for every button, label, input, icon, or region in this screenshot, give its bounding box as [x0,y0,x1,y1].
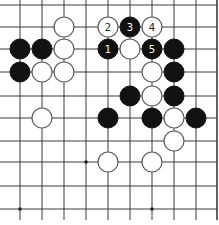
black-stone[interactable] [164,39,184,59]
white-stone-move-4[interactable]: 4 [142,17,162,37]
white-stone-icon [142,86,162,106]
black-stone-icon [10,62,30,82]
black-stone[interactable] [186,108,206,128]
black-stone-move-1[interactable]: 1 [98,39,118,59]
white-stone-icon [32,108,52,128]
white-stone-move-2[interactable]: 2 [98,17,118,37]
black-stone[interactable] [120,86,140,106]
black-stone-move-5[interactable]: 5 [142,39,162,59]
white-stone[interactable] [120,39,140,59]
white-stone-icon [120,39,140,59]
black-stone[interactable] [164,86,184,106]
white-stone-icon [32,62,52,82]
white-stone-icon [98,152,118,172]
white-stone-icon [54,17,74,37]
white-stone[interactable] [54,17,74,37]
black-stone[interactable] [98,108,118,128]
white-stone-icon [142,152,162,172]
white-stone[interactable] [142,86,162,106]
white-stone-icon [142,62,162,82]
star-point [84,160,88,164]
white-stone[interactable] [32,62,52,82]
white-stone[interactable] [32,108,52,128]
star-point [18,207,22,211]
black-stone[interactable] [32,39,52,59]
black-stone-icon [98,108,118,128]
move-number: 1 [105,44,111,55]
white-stone-icon [54,62,74,82]
black-stone[interactable] [164,62,184,82]
white-stone[interactable] [54,62,74,82]
white-stone-icon [54,39,74,59]
move-number: 5 [149,44,155,55]
move-number: 4 [149,22,155,33]
white-stone[interactable] [54,39,74,59]
black-stone[interactable] [142,108,162,128]
move-number: 2 [105,22,111,33]
white-stone[interactable] [142,62,162,82]
white-stone[interactable] [164,131,184,151]
black-stone-icon [164,62,184,82]
black-stone-icon [32,39,52,59]
star-point [150,207,154,211]
black-stone-icon [142,108,162,128]
white-stone-icon [164,131,184,151]
black-stone-icon [186,108,206,128]
white-stone[interactable] [98,152,118,172]
black-stone-icon [10,39,30,59]
white-stone-icon [164,108,184,128]
black-stone-icon [164,86,184,106]
white-stone[interactable] [142,152,162,172]
black-stone[interactable] [10,39,30,59]
move-number: 3 [127,22,133,33]
black-stone-icon [164,39,184,59]
black-stone-icon [120,86,140,106]
black-stone[interactable] [10,62,30,82]
black-stone-move-3[interactable]: 3 [120,17,140,37]
go-board[interactable]: 23415 [0,0,219,225]
white-stone[interactable] [164,108,184,128]
